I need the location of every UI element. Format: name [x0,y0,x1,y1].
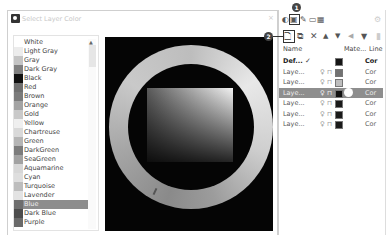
color-list-item[interactable]: Purple [14,218,88,227]
color-swatch [14,47,23,56]
layer-name[interactable]: Laye... [283,67,305,77]
layer-color-swatch[interactable] [335,79,343,87]
color-list-item[interactable]: Cyan [14,173,88,182]
color-list-item[interactable]: Green [14,137,88,146]
color-list-item[interactable]: Gray [14,56,88,65]
settings-icon[interactable]: ⚙ [374,15,381,24]
layers-icon[interactable]: ◐ [282,15,289,24]
color-label: Blue [24,200,38,209]
move-down-icon[interactable]: ▼ [335,31,340,42]
layer-row[interactable]: Laye...♀⊓Cor [279,77,383,87]
close-icon[interactable]: × [268,14,274,22]
layer-name[interactable]: Laye... [283,109,305,119]
visibility-bulb-icon[interactable]: ♀ [320,78,325,86]
layer-color-swatch[interactable] [335,69,343,77]
layer-linetype[interactable]: Cor [365,119,376,129]
color-swatch [14,74,23,83]
color-list-item[interactable]: Blue [14,200,88,209]
column-name[interactable]: Name [283,45,302,53]
move-up-icon[interactable]: ▲ [323,31,328,42]
more-icon[interactable]: ▮ [376,31,381,42]
color-label: Green [24,137,44,146]
color-list-item[interactable]: Red [14,83,88,92]
visibility-bulb-icon[interactable]: ♀ [320,89,325,97]
callout-1: 1 [292,3,301,12]
layer-name[interactable]: Laye... [283,119,305,129]
color-list-item[interactable]: Dark Gray [14,65,88,74]
layer-linetype[interactable]: Cor [365,77,376,87]
color-list-item[interactable]: Yellow [14,119,88,128]
color-label: Black [24,74,42,83]
layer-row[interactable]: Laye...♀⊓Cor [279,119,383,129]
folder-icon[interactable]: ▭ [309,15,317,24]
scrollbar-thumb[interactable] [89,45,96,67]
collapse-icon[interactable]: ◀ [348,31,353,42]
color-label: Gold [24,110,39,119]
lock-icon[interactable]: ⊓ [327,78,332,86]
layer-linetype[interactable]: Cor [365,109,376,119]
pen-icon[interactable]: ✎ [300,15,307,24]
layer-color-swatch[interactable] [335,121,343,129]
color-list-item[interactable]: Brown [14,92,88,101]
layer-name[interactable]: Def... [283,56,303,66]
visibility-bulb-icon[interactable]: ♀ [320,110,325,118]
column-material[interactable]: Mate... [344,45,366,53]
lock-icon[interactable]: ⊓ [327,99,332,107]
layer-name[interactable]: Laye... [283,98,305,108]
color-label: Dark Gray [24,65,57,74]
color-list-item[interactable]: Aquamarine [14,164,88,173]
color-list-item[interactable]: White [14,38,88,47]
layer-row[interactable]: Def...✓Cor [279,56,383,66]
color-list-item[interactable]: Black [14,74,88,83]
image-icon[interactable]: ▦ [317,15,325,24]
color-list-item[interactable]: Gold [14,110,88,119]
color-list-item[interactable]: Orange [14,101,88,110]
layer-name[interactable]: Laye... [283,77,305,87]
color-label: Light Gray [24,47,58,56]
layer-row[interactable]: Laye...♀⊓Cor [279,98,383,108]
color-list-item[interactable]: Chartreuse [14,128,88,137]
visibility-bulb-icon[interactable]: ♀ [320,68,325,76]
column-linetype[interactable]: Line [369,45,383,53]
layer-linetype[interactable]: Cor [365,67,376,77]
color-list-item[interactable]: DarkGreen [14,146,88,155]
layer-color-swatch[interactable] [335,100,343,108]
color-list-item[interactable]: Lavender [14,191,88,200]
color-label: White [24,38,43,47]
layer-name[interactable]: Laye... [283,88,305,98]
lock-icon[interactable]: ⊓ [327,120,332,128]
layer-linetype[interactable]: Cor [365,98,376,108]
layer-color-swatch[interactable] [335,58,343,66]
color-list-scrollbar[interactable] [88,39,96,229]
delete-layer-icon[interactable]: ✕ [310,31,318,42]
saturation-value-square[interactable] [147,88,233,162]
layer-color-swatch[interactable] [335,90,343,98]
color-label: Orange [24,101,48,110]
layer-color-swatch[interactable] [335,111,343,119]
layer-linetype[interactable]: Cor [365,56,377,66]
new-sublayer-icon[interactable]: ⧉ [297,31,303,42]
color-label: Red [24,83,36,92]
color-label: SeaGreen [24,155,56,164]
scroll-up-icon[interactable]: ▲ [89,39,93,45]
lock-icon[interactable]: ⊓ [327,68,332,76]
color-swatch [14,83,23,92]
filter-icon[interactable]: ▼ [361,31,367,42]
lock-icon[interactable]: ⊓ [327,89,332,97]
color-list-item[interactable]: SeaGreen [14,155,88,164]
lock-icon[interactable]: ⊓ [327,110,332,118]
color-list-item[interactable]: Turquoise [14,182,88,191]
layer-row[interactable]: Laye...♀⊓Cor [279,88,383,98]
color-label: Gray [24,56,40,65]
color-list-item[interactable]: Light Gray [14,47,88,56]
color-label: Cyan [24,173,41,182]
visibility-bulb-icon[interactable]: ♀ [320,99,325,107]
layer-row[interactable]: Laye...♀⊓Cor [279,67,383,77]
layer-row[interactable]: Laye...♀⊓Cor [279,109,383,119]
color-list-item[interactable]: Dark Blue [14,209,88,218]
material-ball-icon[interactable] [344,88,353,97]
color-label: DarkGreen [24,146,59,155]
current-layer-check-icon[interactable]: ✓ [305,56,311,66]
layer-linetype[interactable]: Cor [365,88,376,98]
visibility-bulb-icon[interactable]: ♀ [320,120,325,128]
